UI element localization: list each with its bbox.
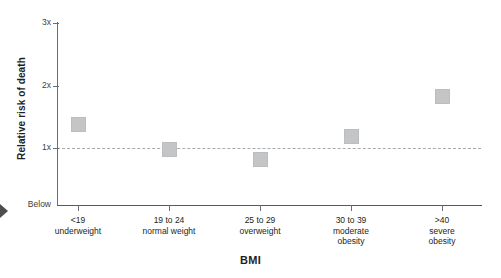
- x-axis-line: [57, 205, 482, 206]
- y-tick-label-3x: 3x: [42, 18, 51, 27]
- reference-line-1x: [57, 148, 481, 149]
- y-tick-label-1x: 1x: [42, 143, 51, 152]
- x-tick-label-4-line1: >40: [387, 215, 497, 226]
- y-tick-3x: [53, 23, 59, 24]
- y-tick-1x: [53, 148, 59, 149]
- x-tick-2: [260, 205, 261, 211]
- x-tick-4: [442, 205, 443, 211]
- x-tick-0: [78, 205, 79, 211]
- edge-arrow-icon: [0, 204, 9, 218]
- y-axis-line: [57, 22, 58, 206]
- y-tick-label-2x: 2x: [42, 81, 51, 90]
- y-tick-2x: [53, 86, 59, 87]
- x-tick-1: [169, 205, 170, 211]
- x-tick-3: [351, 205, 352, 211]
- y-tick-label-below: Below: [28, 200, 51, 209]
- chart-container: Relative risk of death 3x 2x 1x Below <1…: [0, 0, 501, 278]
- x-tick-label-4-line2: severe: [387, 226, 497, 237]
- data-point-4[interactable]: [435, 89, 450, 104]
- data-point-2[interactable]: [253, 152, 268, 167]
- y-axis-title: Relative risk of death: [16, 44, 27, 174]
- data-point-3[interactable]: [344, 129, 359, 144]
- data-point-0[interactable]: [71, 117, 86, 132]
- x-tick-label-4-line3: obesity: [387, 236, 497, 247]
- x-axis-title: BMI: [0, 254, 501, 266]
- x-tick-label-4: >40 severe obesity: [387, 215, 497, 247]
- data-point-1[interactable]: [162, 142, 177, 157]
